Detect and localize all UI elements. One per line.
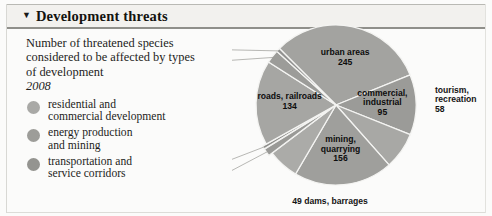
legend-item-transportation[interactable]: transportation and service corridors <box>27 156 207 181</box>
chart-description: Number of threatened species considered … <box>26 36 198 93</box>
legend-item-label: residential and commercial development <box>48 99 166 124</box>
page-title: Development threats <box>36 8 168 25</box>
legend-label-line-2: service corridors <box>48 167 126 180</box>
leader-line <box>232 49 279 51</box>
legend-label-line-2: commercial development <box>48 110 166 123</box>
description-line-1: Number of threatened species <box>26 36 174 50</box>
legend-item-label: energy production and mining <box>48 127 132 152</box>
legend-label-line-1: transportation and <box>48 155 132 168</box>
triangle-down-icon[interactable]: ▼ <box>22 11 31 20</box>
legend-label-line-1: energy production <box>48 126 132 139</box>
description-year: 2008 <box>26 79 198 93</box>
description-line-2: considered to be affected by <box>26 50 165 64</box>
legend-item-residential[interactable]: residential and commercial development <box>27 99 207 124</box>
leader-line <box>232 57 274 63</box>
chart-legend: residential and commercial development e… <box>27 99 207 184</box>
pie-chart: urban areas245commercial,industrial95tou… <box>232 18 492 216</box>
leader-line <box>232 151 268 181</box>
pie-chart-svg: urban areas245commercial,industrial95tou… <box>232 18 492 216</box>
pie-slice-label: tourism,recreation58 <box>435 85 477 114</box>
figure-panel: ▼ Development threats Number of threaten… <box>0 0 492 216</box>
legend-item-label: transportation and service corridors <box>48 156 132 181</box>
pie-slice-label: 49 dams, barrages <box>292 196 368 206</box>
legend-swatch-icon <box>27 158 40 171</box>
legend-swatch-icon <box>27 129 40 142</box>
legend-label-line-1: residential and <box>48 98 116 111</box>
legend-label-line-2: and mining <box>48 139 101 152</box>
legend-item-energy[interactable]: energy production and mining <box>27 127 207 152</box>
frame-border-left <box>6 4 7 213</box>
legend-swatch-icon <box>27 101 40 114</box>
leader-line <box>232 147 265 167</box>
